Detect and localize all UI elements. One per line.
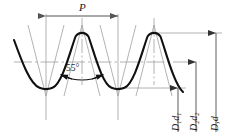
minor-diameter-label: D1d1 <box>171 113 181 131</box>
major-diameter-label: D,d <box>210 116 220 131</box>
pitch-label: P <box>79 2 86 13</box>
thread-angle-label: 55° <box>66 64 79 74</box>
pitch-diameter-label: D2d2 <box>189 113 199 131</box>
thread-profile-curve <box>14 33 183 92</box>
construction-vee-lines <box>28 25 172 96</box>
thread-profile-diagram: P 55° D1d1 D2d2 D,d <box>0 0 248 136</box>
